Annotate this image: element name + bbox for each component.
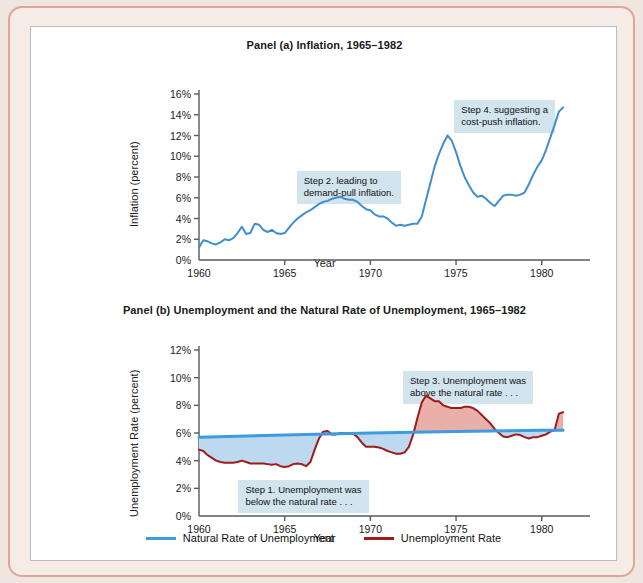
legend-item-2: Unemployment Rate [364, 532, 501, 544]
legend-swatch-icon [146, 537, 176, 540]
legend-swatch-icon [364, 537, 394, 540]
panel-a-plot [31, 27, 618, 277]
figure-inner-panel: Panel (a) Inflation, 1965–1982 Inflation… [30, 26, 617, 561]
legend-label: Natural Rate of Unemployment [183, 532, 334, 544]
panel-a: Panel (a) Inflation, 1965–1982 Inflation… [31, 27, 618, 277]
panel-b: Panel (b) Unemployment and the Natural R… [31, 292, 618, 562]
legend-label: Unemployment Rate [401, 532, 501, 544]
legend-item-1: Natural Rate of Unemployment [146, 532, 334, 544]
figure-outer-frame: Panel (a) Inflation, 1965–1982 Inflation… [8, 6, 635, 577]
panel-b-plot [31, 292, 618, 562]
chart-legend: Natural Rate of UnemploymentUnemployment… [31, 532, 616, 544]
